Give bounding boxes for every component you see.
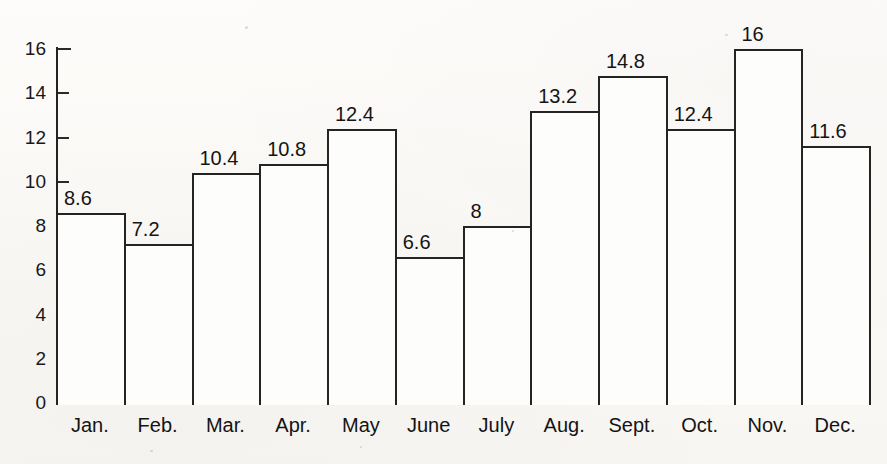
x-axis-label-june: June — [395, 414, 463, 436]
x-axis-label-apr: Apr. — [259, 414, 327, 436]
bar-apr — [259, 164, 329, 405]
bar-may — [327, 129, 397, 405]
x-axis-label-nov: Nov. — [734, 414, 802, 436]
bar-aug — [530, 111, 600, 405]
bar-oct — [666, 129, 736, 405]
bar-value-label: 13.2 — [538, 86, 577, 106]
y-axis-tick-label: 12 — [0, 128, 46, 147]
y-axis-tick-label: 10 — [0, 172, 46, 191]
y-axis-tick-label: 4 — [0, 305, 46, 324]
scan-speck — [360, 446, 362, 448]
scan-speck — [245, 26, 248, 29]
y-axis-tick-16 — [58, 48, 71, 50]
y-axis-tick-10 — [58, 181, 69, 183]
bar-jan — [56, 213, 126, 405]
x-axis-label-aug: Aug. — [530, 414, 598, 436]
y-axis-tick-12 — [58, 137, 69, 139]
y-axis-tick-label: 0 — [0, 393, 46, 412]
y-axis-tick-14 — [58, 92, 69, 94]
bar-value-label: 14.8 — [606, 51, 645, 71]
x-axis-label-sept: Sept. — [598, 414, 666, 436]
x-axis-label-feb: Feb. — [124, 414, 192, 436]
bar-sept — [598, 76, 668, 405]
bar-value-label: 16 — [742, 24, 764, 44]
bar-value-label: 11.6 — [809, 121, 846, 141]
bar-value-label: 6.6 — [403, 232, 431, 252]
plot-area: 1614121086420 8.67.210.410.812.46.6813.2… — [0, 0, 887, 464]
x-axis-label-oct: Oct. — [666, 414, 734, 436]
scan-speck — [725, 34, 728, 36]
x-axis-label-dec: Dec. — [801, 414, 869, 436]
y-axis-tick-label: 2 — [0, 349, 46, 368]
bar-value-label: 12.4 — [674, 104, 713, 124]
bar-value-label: 10.4 — [200, 148, 239, 168]
x-axis-label-mar: Mar. — [192, 414, 260, 436]
y-axis-tick-label: 16 — [0, 39, 46, 58]
bar-value-label: 8 — [471, 201, 482, 221]
bar-nov — [734, 49, 804, 405]
bar-value-label: 12.4 — [335, 104, 374, 124]
bar-chart: 1614121086420 8.67.210.410.812.46.6813.2… — [0, 0, 887, 464]
y-axis-tick-label: 8 — [0, 216, 46, 235]
y-axis-tick-label: 14 — [0, 83, 46, 102]
x-axis-label-may: May — [327, 414, 395, 436]
scan-speck — [150, 450, 153, 452]
y-axis-tick-label: 6 — [0, 260, 46, 279]
bar-feb — [124, 244, 194, 405]
bar-july — [463, 226, 533, 405]
bar-value-label: 8.6 — [64, 188, 92, 208]
bar-value-label: 10.8 — [267, 139, 306, 159]
bar-value-label: 7.2 — [132, 219, 160, 239]
bar-mar — [192, 173, 262, 405]
x-axis-label-jan: Jan. — [56, 414, 124, 436]
bar-dec — [801, 146, 871, 405]
bar-june — [395, 257, 465, 405]
x-axis-label-july: July — [463, 414, 531, 436]
